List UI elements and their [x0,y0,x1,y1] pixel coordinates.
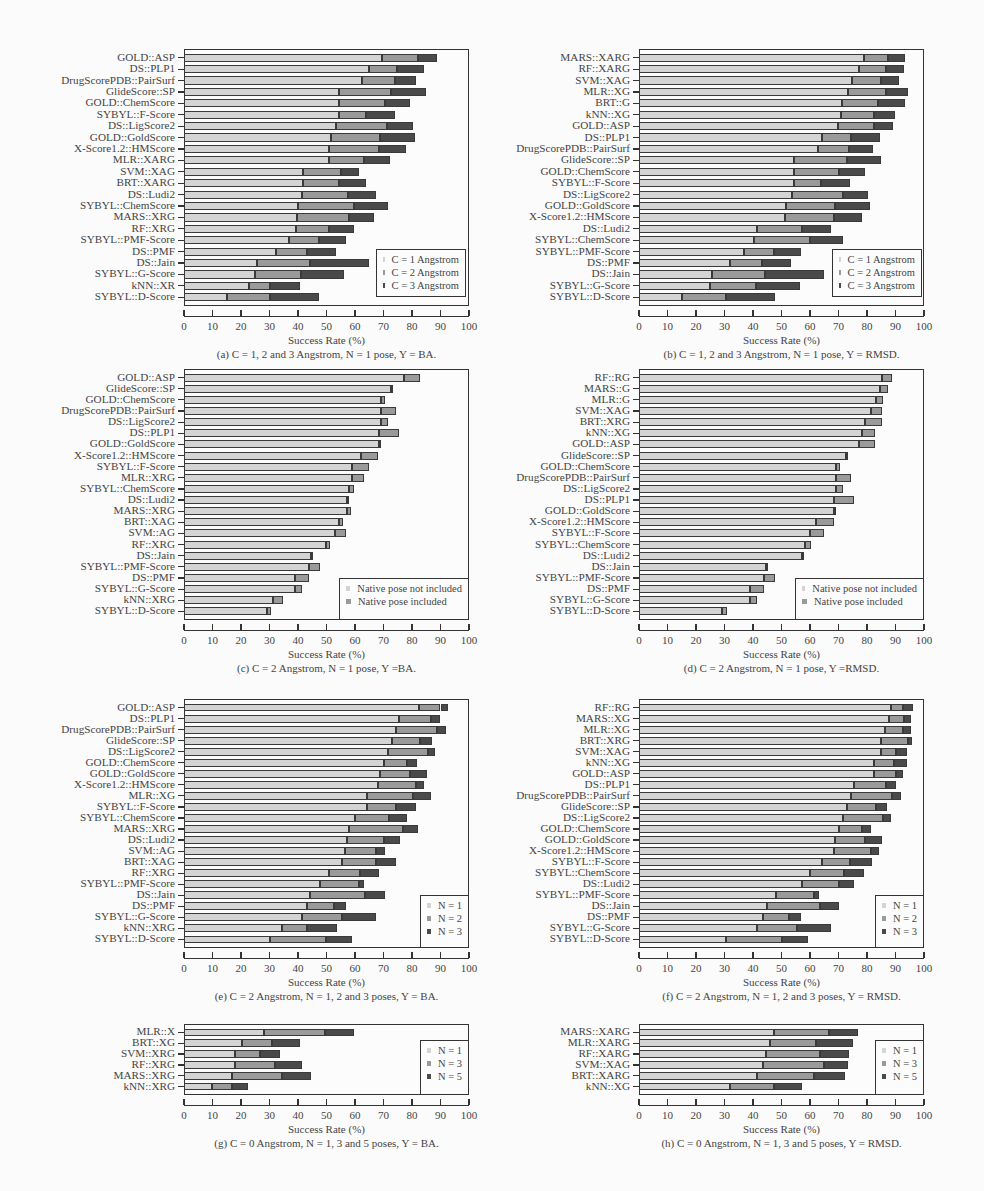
bar-segment-2 [342,858,377,866]
bar-row [184,541,469,549]
category-label: kNN::XG [586,109,630,120]
figure-caption: (f) C = 2 Angstrom, N = 1, 2 and 3 poses… [579,990,984,1002]
category-label: GOLD::ASP [572,438,630,449]
bar-row [639,429,924,437]
bar-segment-3 [364,156,391,164]
legend-swatch-icon [882,1061,886,1066]
legend-swatch-icon [802,599,807,604]
category-label: GOLD::ChemScore [86,97,175,108]
bar-segment-3 [821,179,850,187]
x-tick-label: 50 [312,634,342,646]
bar-segment-1 [639,440,859,448]
bar-segment-1 [184,924,282,932]
category-label: SYBYL::F-Score [552,527,630,538]
bar-segment-1 [184,1072,232,1080]
bar-row [639,168,924,176]
bar-segment-2 [770,1039,816,1047]
x-tick-label: 90 [881,320,911,332]
bar-row [639,122,924,130]
x-axis-label: Success Rate (%) [639,334,924,346]
legend-swatch-icon [346,599,351,604]
bar-segment-1 [184,529,335,537]
bar-row [639,880,924,888]
bar-segment-2 [303,168,341,176]
bar-row [639,869,924,877]
bar-segment-1 [639,748,881,756]
bar-segment-3 [843,191,869,199]
x-tick-label: 60 [795,962,825,974]
bar-segment-2 [785,213,833,221]
bar-segment-1 [639,54,864,62]
bar-segment-3 [797,924,831,932]
bar-segment-1 [639,936,726,944]
bar-row [184,563,469,571]
bar-segment-1 [639,825,839,833]
bar-segment-3 [376,847,385,855]
bar-segment-2 [750,596,757,604]
category-label: DS::PMF [132,246,175,257]
bar-segment-1 [639,563,766,571]
bar-segment-3 [339,179,366,187]
bar-segment-2 [367,792,413,800]
legend-label: C = 1 Angstrom [392,253,459,266]
bar-segment-2 [763,913,790,921]
bar-segment-2 [682,293,726,301]
bar-segment-2 [834,507,836,515]
bar-row [639,156,924,164]
bar-segment-2 [267,607,271,615]
bar-segment-2 [891,704,904,712]
x-axis-label: Success Rate (%) [184,334,469,346]
bar-segment-1 [184,99,339,107]
bar-segment-1 [184,407,381,415]
legend-label: C = 2 Angstrom [848,266,915,279]
bar-segment-3 [416,781,424,789]
x-tick-label: 40 [283,320,313,332]
bar-segment-2 [257,259,311,267]
bar-segment-3 [385,99,410,107]
bar-segment-1 [184,440,379,448]
bar-row [184,463,469,471]
legend-item: Native pose included [802,595,917,608]
bar-segment-3 [391,88,425,96]
figure-caption: (a) C = 1, 2 and 3 Angstrom, N = 1 pose,… [124,348,529,360]
legend-swatch-icon [427,1061,431,1066]
bar-segment-3 [342,913,376,921]
bar-segment-1 [184,1061,235,1069]
bar-row [639,552,924,560]
bar-segment-2 [378,781,416,789]
x-tick-label: 0 [624,634,654,646]
bar-segment-1 [639,259,730,267]
bar-row [639,726,924,734]
bar-segment-3 [349,213,373,221]
bar-segment-1 [184,770,380,778]
bar-segment-2 [297,213,349,221]
bar-row [639,847,924,855]
bar-row [184,552,469,560]
bar-segment-3 [774,248,801,256]
bar-row [639,507,924,515]
bar-segment-1 [639,1083,730,1091]
bar-segment-1 [184,202,298,210]
bar-segment-2 [730,1083,775,1091]
x-tick-label: 10 [653,962,683,974]
bar-segment-3 [232,1083,247,1091]
x-tick-label: 30 [710,962,740,974]
x-tick-label: 50 [767,1109,797,1121]
category-label: GlideScore::SP [561,450,630,461]
bar-segment-2 [302,191,348,199]
bar-segment-2 [750,585,764,593]
category-label: SYBYL::D-Score [95,605,175,616]
legend-label: Native pose included [814,595,903,608]
x-tick-label: 60 [795,634,825,646]
legend-label: N = 1 [893,899,917,912]
x-tick-label: 30 [255,962,285,974]
bar-segment-1 [639,463,836,471]
bar-row [184,88,469,96]
bar-segment-2 [326,541,330,549]
legend-swatch-icon [839,257,841,262]
legend-label: N = 3 [438,925,462,938]
category-label: SYBYL::F-Score [552,177,630,188]
category-label: DS::PMF [587,257,630,268]
bar-segment-2 [264,1029,325,1037]
bar-segment-1 [639,191,792,199]
